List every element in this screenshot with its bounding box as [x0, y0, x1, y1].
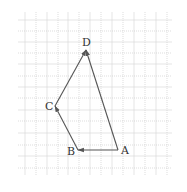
vector-grid-diagram: ABCD	[0, 0, 187, 192]
point-label-a: A	[120, 144, 130, 157]
point-label-b: B	[67, 145, 75, 158]
vector-ad	[86, 50, 118, 150]
vector-cd	[55, 50, 86, 106]
vectors	[55, 50, 118, 150]
point-label-d: D	[82, 36, 91, 49]
point-label-c: C	[45, 100, 53, 113]
vector-bc	[55, 106, 78, 150]
